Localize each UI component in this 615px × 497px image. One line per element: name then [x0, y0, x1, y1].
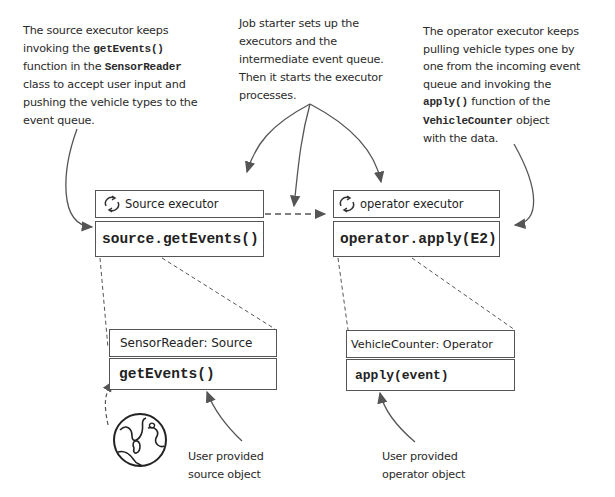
globe-icon [110, 410, 170, 470]
operator-executor-code: operator.apply(E2) [333, 221, 500, 257]
arrow-user-source [207, 392, 242, 441]
sensor-reader-code: getEvents() [109, 358, 277, 390]
sync-icon [102, 194, 122, 214]
note-user-operator: User provided operator object [382, 448, 465, 484]
arrow-operator-note [514, 144, 534, 225]
arrow-job-to-queue [294, 104, 310, 206]
sync-icon [337, 194, 357, 214]
arrow-user-operator [380, 393, 415, 442]
arrow-job-to-operator [310, 104, 381, 182]
sensor-reader-title: SensorReader: Source [109, 329, 277, 357]
arrow-source-note [66, 129, 92, 227]
operator-executor-title: operator executor [333, 190, 500, 218]
source-executor-code: source.getEvents() [95, 221, 264, 257]
source-executor-title: Source executor [95, 190, 264, 218]
note-job-starter: Job starter sets up the executors and th… [239, 15, 384, 105]
arrow-job-to-source [247, 104, 310, 172]
vehicle-counter-title: VehicleCounter: Operator [346, 330, 515, 358]
note-operator-executor: The operator executor keeps pulling vehi… [423, 23, 580, 148]
note-source-executor: The source executor keeps invoking the g… [23, 22, 197, 130]
vehicle-counter-code: apply(event) [346, 359, 515, 391]
note-user-source: User provided source object [188, 448, 264, 484]
